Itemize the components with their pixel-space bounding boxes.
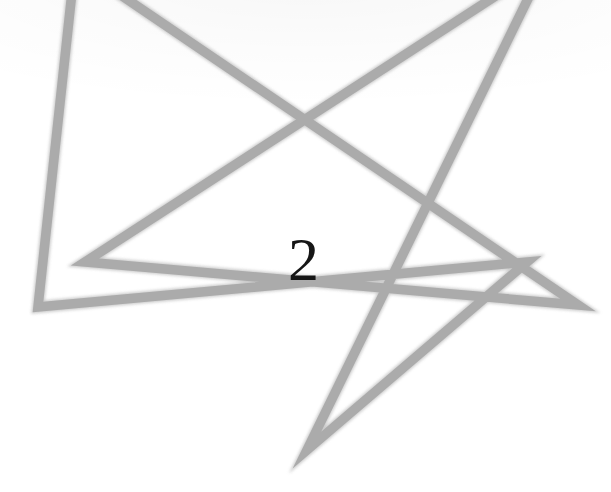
- figure-number-label: 2: [288, 228, 319, 290]
- figure-page: 2: [0, 0, 611, 492]
